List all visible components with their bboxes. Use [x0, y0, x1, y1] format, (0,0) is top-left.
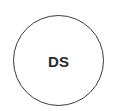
avatar[interactable]: DS	[13, 15, 104, 106]
avatar-initials: DS	[48, 54, 69, 69]
avatar-container: DS	[0, 0, 117, 111]
